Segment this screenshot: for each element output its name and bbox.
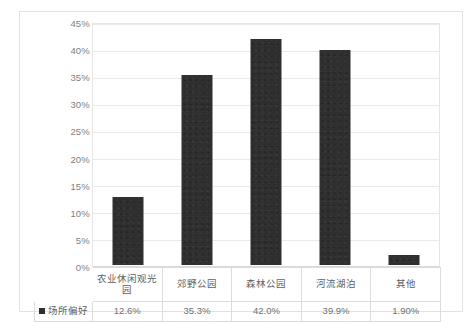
category-label-1: 农业休闲观光园 — [94, 274, 161, 296]
legend-swatch-icon — [39, 308, 45, 314]
table-corner-cell — [35, 268, 93, 302]
table-cell-value-3: 42.0% — [232, 302, 302, 322]
table-cell-category-4: 河流湖泊 — [301, 268, 371, 302]
bar-agricultural-leisure-park[interactable] — [113, 197, 144, 265]
y-tick-10: 10% — [44, 207, 90, 218]
bar-slot-2 — [163, 25, 232, 265]
category-label-5: 其他 — [372, 279, 439, 290]
y-tick-45: 45% — [44, 18, 90, 29]
data-table: 农业休闲观光园 郊野公园 森林公园 河流湖泊 其他 — [34, 267, 441, 322]
y-tick-20: 20% — [44, 153, 90, 164]
category-label-3: 森林公园 — [233, 279, 300, 290]
table-cell-value-1: 12.6% — [93, 302, 163, 322]
table-cell-value-2: 35.3% — [162, 302, 232, 322]
bar-slot-3 — [232, 25, 301, 265]
category-label-4: 河流湖泊 — [303, 279, 370, 290]
bar-slot-5 — [369, 25, 438, 265]
bars-layer — [94, 25, 438, 265]
legend-label: 场所偏好 — [48, 306, 88, 317]
category-label-2: 郊野公园 — [164, 279, 231, 290]
y-tick-25: 25% — [44, 126, 90, 137]
table-cell-category-3: 森林公园 — [232, 268, 302, 302]
bar-forest-park[interactable] — [250, 39, 281, 265]
y-tick-35: 35% — [44, 72, 90, 83]
chart-frame[interactable]: 45% 40% 35% 30% 25% 20% 15% 10% 5% 0% — [19, 11, 463, 312]
y-tick-40: 40% — [44, 45, 90, 56]
y-axis: 45% 40% 35% 30% 25% 20% 15% 10% 5% 0% — [34, 23, 90, 267]
table-row-categories: 农业休闲观光园 郊野公园 森林公园 河流湖泊 其他 — [35, 268, 441, 302]
y-tick-30: 30% — [44, 99, 90, 110]
legend-entry[interactable]: 场所偏好 — [35, 302, 93, 322]
table-row-values: 场所偏好 12.6% 35.3% 42.0% 39.9% 1.90% — [35, 302, 441, 322]
plot-area — [92, 23, 440, 267]
table-cell-category-1: 农业休闲观光园 — [93, 268, 163, 302]
bar-rivers-lakes[interactable] — [319, 50, 350, 265]
bar-country-park[interactable] — [182, 75, 213, 265]
plot-area-wrapper — [92, 23, 440, 267]
bar-other[interactable] — [388, 255, 419, 265]
y-tick-15: 15% — [44, 180, 90, 191]
table-cell-category-2: 郊野公园 — [162, 268, 232, 302]
y-tick-5: 5% — [44, 234, 90, 245]
bar-slot-4 — [300, 25, 369, 265]
bar-chart-screenshot: 45% 40% 35% 30% 25% 20% 15% 10% 5% 0% — [0, 0, 472, 323]
table-cell-value-5: 1.90% — [371, 302, 441, 322]
bar-slot-1 — [94, 25, 163, 265]
table-cell-category-5: 其他 — [371, 268, 441, 302]
table-cell-value-4: 39.9% — [301, 302, 371, 322]
